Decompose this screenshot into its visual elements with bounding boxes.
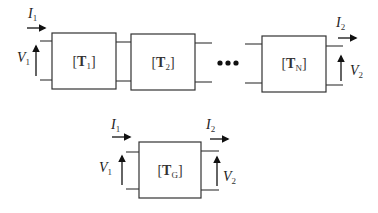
equivalent-output-current: I2: [205, 117, 228, 139]
current-label-i1: I1: [27, 6, 37, 23]
voltage-label-v1: V1: [99, 160, 112, 177]
equivalent-network: I1 V1 [TG] I2 V2: [99, 117, 236, 198]
block-label-tg: [TG]: [157, 163, 182, 180]
equivalent-input-current: I1: [110, 117, 130, 137]
block-tg: [TG]: [139, 142, 201, 198]
cascade-network: I1 V1 [T1] [T2]: [17, 6, 363, 92]
cascade-input-voltage: V1: [17, 46, 36, 76]
voltage-label-v1: V1: [17, 50, 30, 67]
cascade-output-voltage: V2: [341, 56, 363, 81]
voltage-label-v2: V2: [350, 63, 363, 80]
block-label-t1: [T1]: [72, 54, 95, 71]
block-t1: [T1]: [52, 33, 116, 89]
block-t2: [T2]: [131, 34, 195, 90]
voltage-label-v2: V2: [223, 169, 236, 186]
current-label-i1: I1: [110, 117, 120, 134]
cascade-input-current: I1: [27, 6, 45, 28]
block-label-t2: [T2]: [151, 55, 174, 72]
ellipsis-dots-icon: [217, 60, 238, 65]
block-label-tn: [TN]: [281, 56, 306, 73]
current-label-i2: I2: [335, 15, 345, 32]
current-label-i2: I2: [205, 117, 215, 134]
block-tn: [TN]: [262, 36, 326, 92]
equivalent-input-voltage: V1: [99, 156, 122, 185]
two-port-diagram: I1 V1 [T1] [T2]: [0, 0, 378, 213]
cascade-output-current: I2: [335, 15, 356, 38]
equivalent-output-voltage: V2: [217, 157, 236, 186]
